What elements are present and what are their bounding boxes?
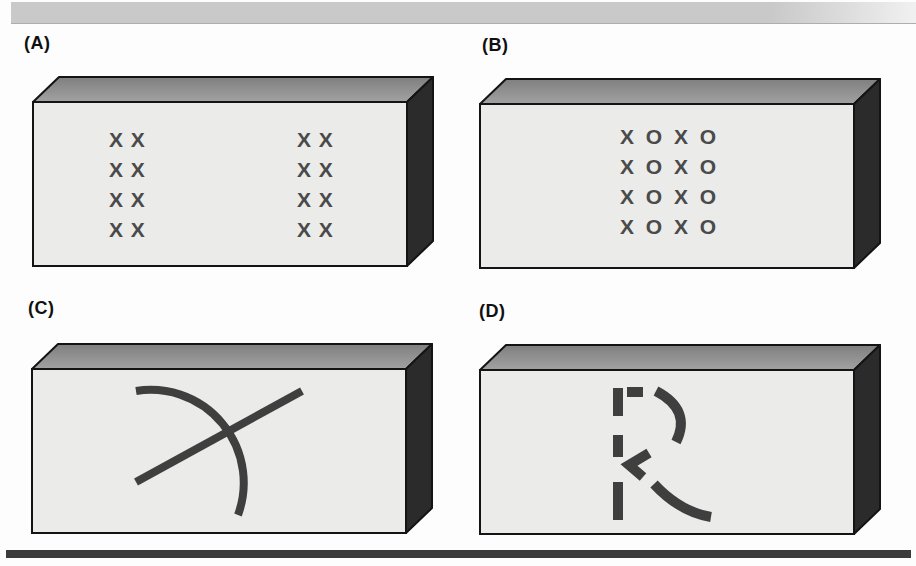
panel-b-block: X O X O X O X O X O X O X O X O	[477, 74, 887, 274]
x-mark-row: X X	[109, 128, 146, 151]
panel-b-label: (B)	[482, 35, 509, 56]
box-top-face	[32, 344, 432, 369]
four-panel-block-figure: (A) X X X X X X X X X X X X X X X X (B)	[0, 0, 916, 566]
box-top-face	[480, 345, 880, 370]
box-side-face	[854, 345, 880, 534]
xoxo-row: X O X O	[620, 185, 719, 208]
x-mark-row: X X	[297, 158, 334, 181]
panel-c-label: (C)	[28, 298, 55, 319]
x-mark-row: X X	[297, 188, 334, 211]
xoxo-row: X O X O	[620, 215, 719, 238]
box-top-face	[33, 77, 433, 102]
box-front-face	[32, 369, 406, 533]
bottom-divider-bar	[6, 550, 911, 558]
box-side-face	[407, 77, 433, 266]
panel-a-label: (A)	[24, 33, 51, 54]
box-side-face	[406, 344, 432, 533]
x-mark-row: X X	[109, 218, 146, 241]
xoxo-row: X O X O	[620, 125, 719, 148]
box-top-face	[480, 79, 880, 104]
box-side-face	[854, 79, 880, 268]
panel-c-block	[29, 339, 439, 539]
xoxo-row: X O X O	[620, 155, 719, 178]
x-mark-row: X X	[109, 188, 146, 211]
panel-d-label: (D)	[479, 301, 506, 322]
panel-d-block	[477, 340, 887, 540]
panel-a-block: X X X X X X X X X X X X X X X X	[30, 72, 440, 272]
top-divider-bar	[11, 2, 916, 24]
x-mark-row: X X	[109, 158, 146, 181]
x-mark-row: X X	[297, 128, 334, 151]
x-mark-row: X X	[297, 218, 334, 241]
box-front-face	[33, 102, 407, 266]
